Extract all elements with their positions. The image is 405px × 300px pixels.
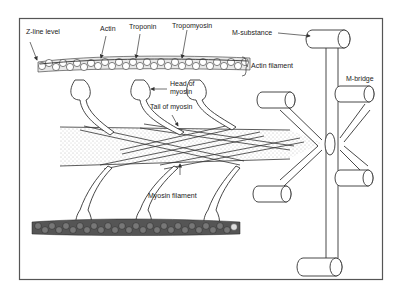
label-actin: Actin — [100, 25, 116, 33]
label-myosin-filament: Myosin filament — [148, 192, 197, 200]
label-z-line: Z-line level — [26, 28, 60, 36]
label-m-bridge: M-bridge — [346, 75, 374, 83]
label-actin-filament: Actin filament — [251, 62, 293, 70]
actin-filament-top — [38, 56, 250, 72]
label-troponin: Troponin — [129, 23, 156, 31]
label-head-of-myosin-line2: myosin — [170, 88, 192, 96]
diagram-canvas — [0, 0, 405, 300]
label-m-substance: M-substance — [232, 29, 272, 37]
label-head-of-myosin-line1: Head of — [170, 80, 195, 88]
label-tail-of-myosin: Tail of myosin — [150, 103, 192, 111]
label-tropomyosin: Tropomyosin — [172, 22, 212, 30]
actin-filament-bottom — [32, 219, 240, 236]
